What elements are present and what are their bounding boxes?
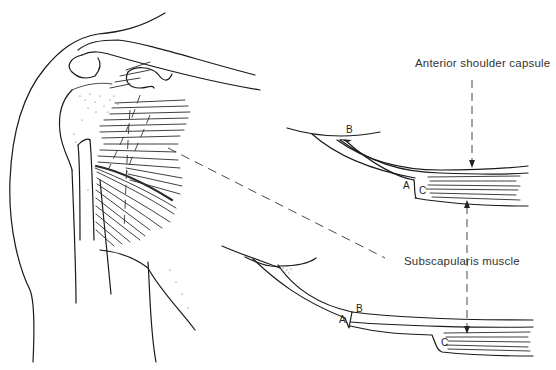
muscle-pointer bbox=[464, 200, 470, 334]
upper-letter-b: B bbox=[346, 124, 353, 135]
lower-cross-section bbox=[245, 257, 533, 356]
anterior-shoulder-capsule-label: Anterior shoulder capsule bbox=[415, 57, 550, 69]
connector-dashed-line bbox=[168, 148, 385, 258]
capsule-pointer bbox=[469, 80, 475, 168]
subscapularis-muscle-label: Subscapularis muscle bbox=[404, 255, 520, 267]
upper-letter-a: A bbox=[403, 180, 410, 191]
lower-letter-b: B bbox=[356, 303, 363, 314]
lower-letter-a: A bbox=[339, 314, 346, 325]
upper-cross-section bbox=[287, 128, 528, 206]
shoulder-diagram bbox=[0, 0, 556, 370]
shoulder-anatomy-drawing bbox=[10, 13, 280, 362]
upper-letter-c: C bbox=[419, 185, 426, 196]
lower-letter-c: C bbox=[441, 337, 448, 348]
